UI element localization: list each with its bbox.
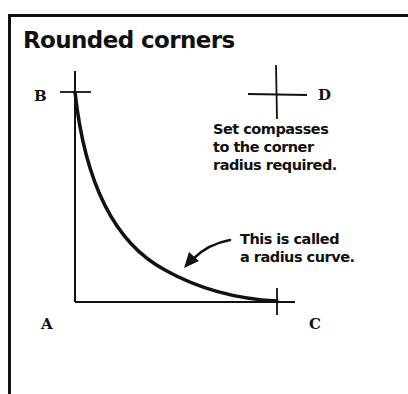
crosshair-d — [248, 65, 307, 119]
callout-text: This is called a radius curve. — [240, 230, 354, 266]
point-label-d: D — [318, 88, 331, 103]
callout-line: This is called — [240, 230, 354, 248]
point-label-b: B — [34, 89, 47, 104]
point-label-a: A — [41, 317, 53, 332]
instruction-line: Set compasses — [213, 120, 337, 138]
instruction-line: to the corner — [213, 138, 337, 156]
callout-line: a radius curve. — [240, 248, 354, 266]
callout-arrow-icon — [184, 240, 230, 268]
instruction-text: Set compasses to the corner radius requi… — [213, 120, 337, 174]
point-label-c: C — [309, 317, 321, 332]
instruction-line: radius required. — [213, 156, 337, 174]
